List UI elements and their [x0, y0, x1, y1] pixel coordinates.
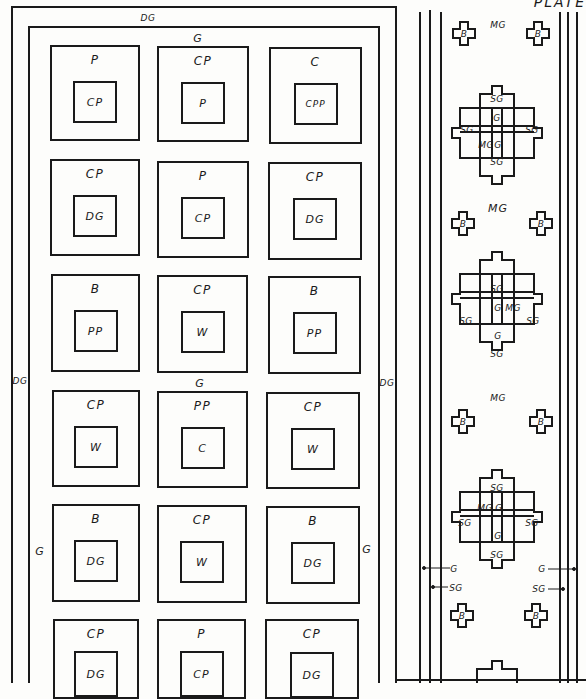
plot: BDG [52, 504, 140, 602]
motif-sg-label: SG [490, 157, 504, 167]
motif-sg-label: SG [460, 125, 474, 135]
plot-outer-label: CP [270, 170, 360, 184]
plot-outer-label: B [270, 284, 359, 298]
plot: PPC [157, 391, 248, 488]
right-border-label: DG [380, 378, 395, 388]
plot: CPDG [265, 619, 359, 699]
cross-b-label: B [535, 29, 542, 39]
plot: CPP [157, 46, 249, 142]
motif-g-label: G [494, 140, 501, 150]
motif-g-label: G [494, 303, 501, 313]
plot-outer-label: C [271, 55, 360, 69]
motif-sg-label: SG [459, 316, 473, 326]
plot-inner-bed: PP [74, 310, 118, 352]
legend-arrows [423, 567, 576, 591]
cross-b-label: B [533, 611, 540, 621]
outer-border-label: DG [141, 13, 156, 23]
plot-outer-label: B [54, 512, 138, 526]
legend-g-label: G [450, 564, 457, 574]
plot-inner-bed: W [181, 311, 225, 353]
plot-outer-label: CP [54, 398, 138, 412]
motif-g-label: G [495, 503, 502, 513]
middle-path-label: G [195, 377, 205, 390]
motif-sg-label: SG [490, 284, 504, 294]
plot-inner-bed: CP [73, 81, 117, 123]
legend-sg-label: SG [532, 584, 546, 594]
cross-b-label: B [460, 417, 467, 427]
plot: PCP [157, 161, 249, 258]
plot-inner-bed: CP [181, 197, 225, 239]
plot-outer-label: CP [159, 513, 245, 527]
plot-inner-bed: DG [74, 651, 118, 697]
plot-inner-bed: DG [74, 540, 118, 582]
plot-inner-bed: DG [73, 195, 117, 237]
plot-inner-bed: W [291, 428, 335, 470]
plot-outer-label: CP [159, 283, 246, 297]
right-path-label: G [362, 543, 372, 556]
plot-outer-label: B [53, 282, 138, 296]
motif-sg-label: SG [526, 316, 540, 326]
motif-sg-label: SG [490, 349, 504, 359]
motif-sg-label: SG [490, 550, 504, 560]
strip-mg-label: MG [490, 20, 506, 30]
plot-inner-bed: CPP [294, 83, 338, 125]
cross-b-label: B [460, 219, 467, 229]
motif-sg-label: SG [458, 518, 472, 528]
motif-mg-label: MG [477, 503, 493, 513]
plot-outer-label: P [159, 169, 247, 183]
strip-mg-label: MG [488, 202, 508, 215]
plot: CPW [52, 390, 140, 487]
motif-shapes [452, 86, 542, 683]
plot: CPDG [50, 159, 140, 256]
plot: PCP [50, 45, 140, 141]
strip-mg-label: MG [490, 393, 506, 403]
plot-inner-bed: C [181, 427, 225, 469]
plot-outer-label: CP [268, 400, 358, 414]
motif-g-label: G [494, 331, 501, 341]
cross-b-label: B [538, 417, 545, 427]
motif-sg-label: SG [490, 483, 504, 493]
motif-mg-label: MG [478, 140, 494, 150]
plot-inner-bed: DG [290, 652, 334, 698]
plot-outer-label: CP [159, 54, 247, 68]
cross-b-label: B [459, 611, 466, 621]
inner-border-label: G [193, 32, 203, 45]
plot: CPDG [268, 162, 362, 260]
plot: CCPP [269, 47, 362, 144]
plot: CPDG [53, 619, 139, 699]
motif-g-label: G [493, 113, 500, 123]
plot-outer-label: CP [52, 167, 138, 181]
plot: CPW [266, 392, 360, 489]
plot: PCP [157, 619, 246, 699]
motif-sg-label: SG [490, 94, 504, 104]
plot: CPW [157, 275, 248, 373]
plot-outer-label: CP [267, 627, 357, 641]
plot-outer-label: P [159, 627, 244, 641]
left-path-label: G [35, 545, 45, 558]
plot-inner-bed: W [180, 541, 224, 583]
plot: BDG [266, 506, 360, 604]
cross-b-label: B [538, 219, 545, 229]
plot-outer-label: P [52, 53, 138, 67]
plot: BPP [268, 276, 361, 374]
legend-sg-label: SG [449, 583, 463, 593]
cross-b-label: B [461, 29, 468, 39]
plot-outer-label: B [268, 514, 358, 528]
plot-inner-bed: PP [293, 312, 337, 354]
plate-label: PLATE [534, 0, 586, 10]
plot-inner-bed: W [74, 426, 118, 468]
motif-g-label: G [494, 531, 501, 541]
legend-g-label: G [538, 564, 545, 574]
plot: CPW [157, 505, 247, 603]
plot-outer-label: PP [159, 399, 246, 413]
left-border-label: DG [13, 376, 28, 386]
motif-sg-label: SG [525, 125, 539, 135]
plot-inner-bed: DG [291, 542, 335, 584]
motif-sg-label: SG [525, 518, 539, 528]
plot: BPP [51, 274, 140, 372]
plot-inner-bed: P [181, 82, 225, 124]
plot-outer-label: CP [55, 627, 137, 641]
plot-inner-bed: DG [293, 198, 337, 240]
plot-inner-bed: CP [180, 651, 224, 697]
motif-mg-label: MG [505, 303, 521, 313]
